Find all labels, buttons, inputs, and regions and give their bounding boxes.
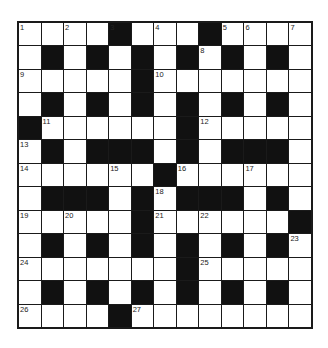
white-square[interactable] [109, 93, 131, 115]
white-square[interactable] [244, 211, 266, 233]
white-square[interactable]: 11 [42, 117, 64, 139]
white-square[interactable] [109, 281, 131, 303]
white-square[interactable] [64, 281, 86, 303]
white-square[interactable] [244, 70, 266, 92]
white-square[interactable]: 15 [109, 164, 131, 186]
white-square[interactable]: 8 [199, 46, 221, 68]
white-square[interactable] [289, 305, 311, 327]
white-square[interactable] [267, 164, 289, 186]
white-square[interactable]: 26 [19, 305, 41, 327]
white-square[interactable]: 27 [132, 305, 154, 327]
white-square[interactable] [222, 258, 244, 280]
white-square[interactable] [132, 258, 154, 280]
white-square[interactable] [154, 117, 176, 139]
white-square[interactable] [109, 117, 131, 139]
white-square[interactable] [222, 117, 244, 139]
white-square[interactable] [289, 93, 311, 115]
white-square[interactable] [199, 234, 221, 256]
white-square[interactable] [154, 305, 176, 327]
white-square[interactable] [64, 234, 86, 256]
white-square[interactable] [199, 70, 221, 92]
white-square[interactable] [64, 140, 86, 162]
white-square[interactable] [64, 70, 86, 92]
white-square[interactable] [267, 258, 289, 280]
white-square[interactable] [289, 46, 311, 68]
white-square[interactable] [132, 164, 154, 186]
white-square[interactable] [109, 46, 131, 68]
white-square[interactable] [199, 93, 221, 115]
white-square[interactable] [244, 93, 266, 115]
white-square[interactable] [154, 258, 176, 280]
white-square[interactable]: 9 [19, 70, 41, 92]
white-square[interactable] [42, 258, 64, 280]
white-square[interactable] [244, 117, 266, 139]
white-square[interactable]: 7 [289, 23, 311, 45]
white-square[interactable] [109, 234, 131, 256]
white-square[interactable]: 18 [154, 187, 176, 209]
white-square[interactable]: 6 [244, 23, 266, 45]
white-square[interactable] [42, 305, 64, 327]
white-square[interactable] [64, 258, 86, 280]
white-square[interactable] [289, 70, 311, 92]
white-square[interactable] [289, 258, 311, 280]
white-square[interactable]: 13 [19, 140, 41, 162]
white-square[interactable] [289, 140, 311, 162]
white-square[interactable]: 10 [154, 70, 176, 92]
white-square[interactable] [154, 93, 176, 115]
white-square[interactable] [267, 23, 289, 45]
white-square[interactable] [177, 305, 199, 327]
white-square[interactable] [19, 93, 41, 115]
white-square[interactable] [244, 187, 266, 209]
white-square[interactable] [289, 117, 311, 139]
white-square[interactable] [64, 164, 86, 186]
white-square[interactable] [199, 305, 221, 327]
white-square[interactable] [42, 70, 64, 92]
white-square[interactable] [154, 46, 176, 68]
white-square[interactable] [19, 281, 41, 303]
white-square[interactable] [177, 211, 199, 233]
white-square[interactable] [199, 140, 221, 162]
white-square[interactable]: 14 [19, 164, 41, 186]
white-square[interactable] [87, 211, 109, 233]
white-square[interactable] [222, 211, 244, 233]
white-square[interactable] [109, 211, 131, 233]
white-square[interactable]: 25 [199, 258, 221, 280]
white-square[interactable] [244, 281, 266, 303]
white-square[interactable] [289, 187, 311, 209]
white-square[interactable] [154, 140, 176, 162]
white-square[interactable] [289, 164, 311, 186]
white-square[interactable] [244, 234, 266, 256]
white-square[interactable] [19, 46, 41, 68]
white-square[interactable] [87, 258, 109, 280]
white-square[interactable]: 21 [154, 211, 176, 233]
white-square[interactable] [87, 23, 109, 45]
white-square[interactable]: 19 [19, 211, 41, 233]
white-square[interactable] [132, 117, 154, 139]
white-square[interactable] [132, 23, 154, 45]
white-square[interactable] [177, 23, 199, 45]
white-square[interactable] [222, 305, 244, 327]
white-square[interactable] [222, 164, 244, 186]
white-square[interactable] [87, 305, 109, 327]
white-square[interactable]: 12 [199, 117, 221, 139]
white-square[interactable] [64, 117, 86, 139]
white-square[interactable] [199, 281, 221, 303]
white-square[interactable] [244, 46, 266, 68]
white-square[interactable] [64, 305, 86, 327]
white-square[interactable]: 4 [154, 23, 176, 45]
white-square[interactable]: 24 [19, 258, 41, 280]
white-square[interactable] [177, 70, 199, 92]
white-square[interactable] [42, 164, 64, 186]
white-square[interactable] [19, 187, 41, 209]
white-square[interactable]: 5 [222, 23, 244, 45]
white-square[interactable] [267, 117, 289, 139]
white-square[interactable] [109, 187, 131, 209]
white-square[interactable] [244, 305, 266, 327]
white-square[interactable] [267, 70, 289, 92]
white-square[interactable] [199, 164, 221, 186]
white-square[interactable] [267, 305, 289, 327]
white-square[interactable] [87, 164, 109, 186]
white-square[interactable] [109, 258, 131, 280]
white-square[interactable] [154, 234, 176, 256]
white-square[interactable] [109, 70, 131, 92]
